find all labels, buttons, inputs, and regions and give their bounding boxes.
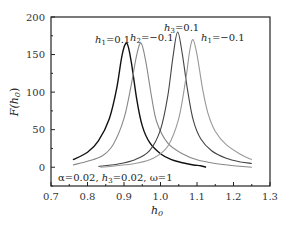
parameter-annotation: α=0.02, h3=0.02, ω=1 [58,172,173,185]
y-tick-label: 50 [32,124,45,135]
x-tick-label: 1.1 [189,191,205,202]
x-axis-label: h0 [151,204,163,218]
x-tick-label: 1.2 [226,191,242,202]
peak-label-h1-neg: h1=−0.1 [201,32,245,45]
y-tick-label: 100 [26,87,45,98]
y-tick-label: 200 [26,12,45,23]
y-tick-label: 0 [39,162,45,173]
x-tick-label: 0.7 [43,191,59,202]
x-tick-label: 0.9 [116,191,132,202]
y-tick-label: 150 [26,49,45,60]
series-line-4 [100,39,252,167]
x-tick-label: 1.3 [262,191,278,202]
series-group [73,32,252,167]
peak-label-h2-neg: h2=−0.1 [130,32,174,45]
series-line-1 [73,43,206,167]
y-axis-label: F(h0) [8,88,22,117]
series-line-2 [73,43,252,167]
resonance-chart: 0.70.80.91.01.11.21.3 050100150200 h1=0.… [0,0,290,226]
x-tick-label: 1.0 [153,191,169,202]
x-axis-ticks: 0.70.80.91.01.11.21.3 [43,182,278,202]
x-tick-label: 0.8 [80,191,96,202]
